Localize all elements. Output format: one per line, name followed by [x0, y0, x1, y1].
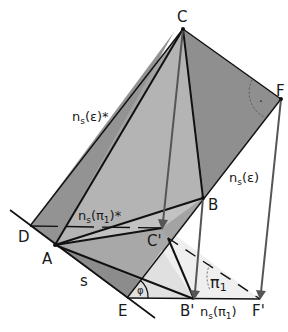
label-point-e: E: [118, 302, 127, 320]
label-point-b: B: [208, 196, 218, 214]
geometry-diagram: C F B D A C' E B' F' s φ π1 ns(ε)* ns(ε)…: [0, 0, 288, 332]
projector-f-fp: [261, 99, 281, 292]
diagram-svg: C F B D A C' E B' F' s φ π1 ns(ε)* ns(ε)…: [0, 0, 288, 332]
label-line-s: s: [80, 272, 88, 290]
label-ns-eps-star: ns(ε)*: [72, 109, 109, 126]
label-point-bp: B': [180, 302, 194, 320]
label-point-d: D: [18, 228, 30, 246]
label-point-cp: C': [147, 232, 162, 250]
point-a: [53, 243, 57, 247]
label-angle-phi: φ: [137, 285, 144, 296]
label-ns-eps: ns(ε): [229, 170, 259, 187]
label-point-a: A: [42, 250, 53, 268]
label-point-fp: F': [252, 302, 265, 320]
point-b: [201, 196, 205, 200]
point-f: [279, 97, 283, 101]
label-point-c: C: [177, 8, 187, 26]
label-ns-pi1-star: ns(π1)*: [78, 208, 122, 225]
right-angle-mark: ·: [259, 95, 263, 109]
point-c: [181, 27, 185, 31]
label-ns-pi1: ns(π1): [200, 304, 237, 321]
